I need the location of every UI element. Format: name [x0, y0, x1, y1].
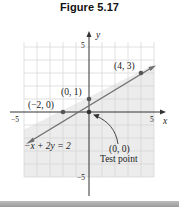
test-point-0-0: [87, 110, 92, 115]
point-4-3: [139, 71, 144, 76]
y-tick-min: −5: [77, 173, 85, 182]
x-tick-min: −5: [11, 115, 19, 124]
point-neg2-0: [61, 110, 66, 115]
y-axis-arrow-icon: [87, 31, 92, 37]
point-0-1: [87, 97, 92, 102]
test-point-caption: Test point: [100, 154, 138, 164]
label-point-4-3: (4, 3): [114, 61, 135, 72]
x-axis-label: x: [162, 116, 168, 126]
label-point-0-1: (0, 1): [61, 87, 82, 98]
y-axis-label: y: [95, 30, 101, 40]
y-tick-max: 5: [81, 41, 85, 50]
equation-label: −x + 2y = 2: [24, 141, 71, 151]
x-tick-max: 5: [150, 115, 154, 124]
coordinate-graph: y x 5 −5 −5 5 (−2, 0) (0, 1) (4, 3) −x +…: [0, 0, 179, 207]
x-axis-arrow-icon: [160, 110, 166, 115]
bottom-divider: [0, 201, 179, 207]
label-point-neg2-0: (−2, 0): [28, 100, 54, 111]
